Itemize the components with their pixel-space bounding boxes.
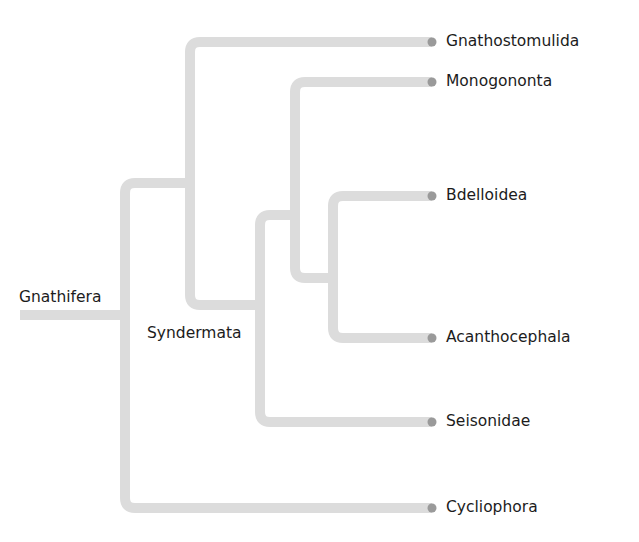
branch-syndermata-to-eurotatoria — [260, 215, 295, 305]
branch-to-gnathostomulida — [190, 42, 432, 183]
tip-dot-gnathostomulida — [428, 38, 437, 47]
tip-dot-bdelloidea — [428, 192, 437, 201]
tip-label-cycliophora: Cycliophora — [446, 500, 538, 516]
tip-label-bdelloidea: Bdelloidea — [446, 188, 527, 204]
branch-to-bdelloid-acanth — [295, 215, 333, 278]
branch-to-acanthocephala — [333, 278, 432, 338]
tip-dot-seisonidae — [428, 418, 437, 427]
branch-to-bdelloidea — [333, 196, 432, 278]
tip-dot-monogononta — [428, 78, 437, 87]
branch-to-seisonidae — [260, 305, 432, 422]
tip-dot-acanthocephala — [428, 334, 437, 343]
branch-root-to-gnathostomulid-clade — [125, 183, 190, 315]
branch-to-syndermata — [190, 183, 260, 305]
tip-label-monogononta: Monogononta — [446, 74, 552, 90]
tip-dot-cycliophora — [428, 504, 437, 513]
tip-label-gnathostomulida: Gnathostomulida — [446, 34, 579, 50]
tip-label-acanthocephala: Acanthocephala — [446, 330, 571, 346]
branch-root-to-cycliophora — [125, 315, 432, 508]
node-label-gnathifera: Gnathifera — [19, 290, 101, 306]
node-label-syndermata: Syndermata — [147, 326, 241, 342]
tip-label-seisonidae: Seisonidae — [446, 414, 530, 430]
